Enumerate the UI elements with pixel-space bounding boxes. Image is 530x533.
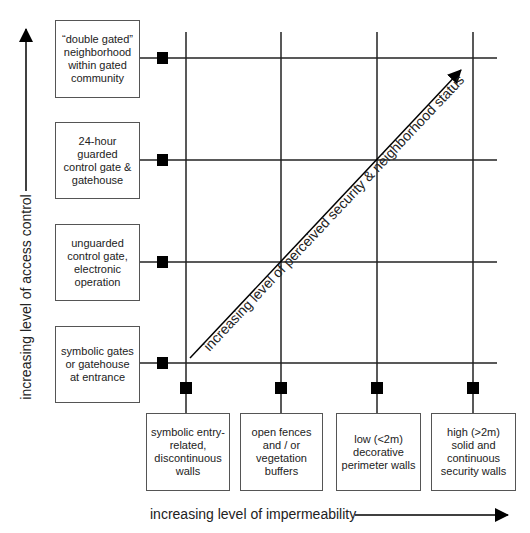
- diagram-canvas: “double gated” neighborhood within gated…: [0, 0, 530, 533]
- impermeability-box-2: open fences and / or vegetation buffers: [240, 413, 323, 491]
- access-level-box-2: unguarded control gate, electronic opera…: [55, 224, 140, 301]
- x-axis-label: increasing level of impermeability: [150, 506, 356, 522]
- y-level-markers: [157, 52, 168, 369]
- access-level-box-4: “double gated” neighborhood within gated…: [55, 20, 140, 98]
- impermeability-box-3: low (<2m) decorative perimeter walls: [336, 413, 421, 491]
- access-level-box-1: symbolic gates or gatehouse at entrance: [55, 326, 140, 403]
- y-axis-label: increasing level of access control: [18, 194, 34, 399]
- x-level-markers: [180, 382, 479, 394]
- impermeability-box-1: symbolic entry- related, discontinuous w…: [146, 413, 230, 491]
- access-level-box-3: 24-hour guarded control gate & gatehouse: [55, 122, 140, 199]
- impermeability-box-4: high (>2m) solid and continuous security…: [431, 413, 516, 491]
